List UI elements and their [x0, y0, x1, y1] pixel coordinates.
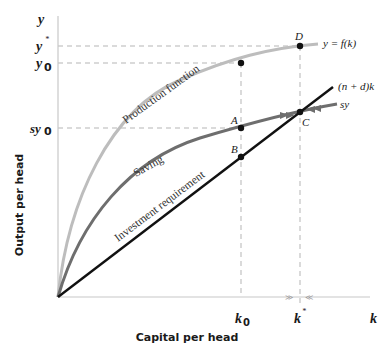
production-function-label: Production function [120, 62, 201, 126]
investment-equation: (n + d)k [338, 80, 375, 93]
x-tick-k-star: k * [294, 307, 306, 326]
point-d [297, 43, 303, 49]
y-tick-y0: y 0 [34, 56, 52, 74]
x-axis-symbol: k [370, 311, 377, 326]
x-arrow-right-icon: ≫ [285, 293, 293, 302]
svg-text:0: 0 [44, 61, 52, 74]
saving-equation: sy [340, 98, 349, 110]
axes [58, 16, 370, 297]
saving-label: Saving [131, 153, 165, 180]
saving-curve [58, 104, 337, 297]
svg-text:k: k [235, 311, 242, 326]
svg-text:sy: sy [29, 121, 41, 136]
label-a: A [230, 114, 238, 126]
investment-requirement-line [58, 87, 333, 297]
y-tick-sy0: sy 0 [29, 121, 52, 138]
production-function-curve [58, 44, 318, 297]
points [238, 43, 303, 160]
x-arrow-left-icon: ≪ [305, 293, 313, 302]
production-equation: y = f(k) [322, 37, 356, 50]
point-y0 [238, 60, 244, 66]
y-tick-y-star: y * [34, 35, 49, 54]
svg-text:*: * [45, 35, 49, 44]
svg-text:0: 0 [44, 125, 52, 138]
label-d: D [294, 30, 303, 42]
x-tick-k0: k 0 [235, 311, 250, 328]
solow-diagram: D A B C y = f(k) (n + d)k sy Production … [0, 0, 392, 352]
svg-text:y: y [34, 39, 43, 54]
y-axis-title: Output per head [13, 154, 26, 256]
point-b [238, 154, 244, 160]
label-b: B [231, 143, 238, 155]
label-c: C [302, 116, 310, 128]
svg-text:0: 0 [243, 317, 250, 328]
svg-text:*: * [302, 307, 306, 316]
point-c [297, 109, 303, 115]
svg-text:k: k [294, 311, 301, 326]
svg-text:y: y [34, 56, 43, 71]
point-a [238, 125, 244, 131]
x-axis-title: Capital per head [136, 331, 239, 344]
y-axis-symbol: y [36, 12, 45, 27]
